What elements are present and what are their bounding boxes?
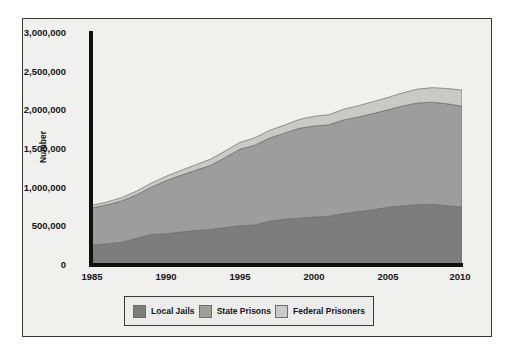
legend-label-local-jails: Local Jails — [151, 306, 194, 316]
y-tick-3000000: 3,000,000 — [0, 28, 66, 38]
plot-area — [92, 33, 462, 265]
x-tick-1990: 1990 — [141, 271, 191, 282]
y-tick-2500000: 2,500,000 — [0, 67, 66, 77]
x-tick-2010: 2010 — [435, 271, 485, 282]
x-tick-1995: 1995 — [215, 271, 265, 282]
legend-item-federal-prisoners: Federal Prisoners — [275, 305, 365, 318]
legend-label-state-prisons: State Prisons — [217, 306, 271, 316]
y-axis-ticks: 3,000,000 2,500,000 2,000,000 1,500,000 … — [0, 0, 66, 355]
y-tick-0: 0 — [0, 260, 66, 270]
legend-label-federal-prisoners: Federal Prisoners — [293, 306, 365, 316]
chart-screenshot: Number 3,000,000 2,500,000 2,000,000 1,5… — [0, 0, 512, 355]
y-tick-500000: 500,000 — [0, 221, 66, 231]
stacked-area-chart — [92, 33, 462, 265]
chart-legend: Local Jails State Prisons Federal Prison… — [124, 296, 374, 326]
y-axis-line — [89, 31, 93, 267]
legend-item-local-jails: Local Jails — [133, 305, 194, 318]
legend-item-state-prisons: State Prisons — [199, 305, 271, 318]
legend-swatch-local-jails — [133, 305, 146, 318]
legend-swatch-federal-prisoners — [275, 305, 288, 318]
x-tick-1985: 1985 — [67, 271, 117, 282]
x-tick-2005: 2005 — [363, 271, 413, 282]
y-tick-1500000: 1,500,000 — [0, 144, 66, 154]
legend-swatch-state-prisons — [199, 305, 212, 318]
x-axis-line — [89, 263, 463, 267]
y-tick-2000000: 2,000,000 — [0, 105, 66, 115]
x-tick-2000: 2000 — [289, 271, 339, 282]
y-tick-1000000: 1,000,000 — [0, 183, 66, 193]
